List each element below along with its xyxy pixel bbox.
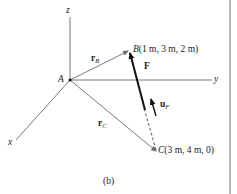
vector-rC: [70, 80, 156, 151]
point-B-label: B(1 m, 3 m, 2 m): [133, 45, 198, 55]
x-axis: [16, 80, 70, 140]
diagram-svg: [0, 0, 237, 194]
force-vector-F: [130, 53, 145, 110]
origin-point: [69, 79, 72, 82]
unit-vector-uF: [151, 99, 156, 116]
figure-caption: (b): [103, 177, 114, 187]
rC-sub: C: [102, 122, 106, 129]
y-axis-label: y: [214, 75, 218, 85]
rB-label: rB: [91, 54, 99, 65]
rC-label: rC: [98, 119, 107, 130]
uF-label: uF: [160, 100, 169, 111]
z-axis-label: z: [66, 6, 70, 16]
F-label: F: [144, 62, 150, 72]
line-CB-dashed: [144, 108, 156, 150]
x-axis-label: x: [8, 138, 12, 148]
point-C-coords: (3 m, 4 m, 0): [164, 145, 214, 155]
point-B-coords: (1 m, 3 m, 2 m): [139, 44, 198, 54]
origin-label: A: [58, 75, 64, 85]
uF-sub: F: [165, 103, 169, 110]
page-edge-line: [229, 0, 231, 194]
rB-sub: B: [95, 57, 99, 64]
position-vector-diagram: z y x A B(1 m, 3 m, 2 m) C(3 m, 4 m, 0) …: [0, 0, 237, 194]
point-C-label: C(3 m, 4 m, 0): [158, 146, 214, 156]
